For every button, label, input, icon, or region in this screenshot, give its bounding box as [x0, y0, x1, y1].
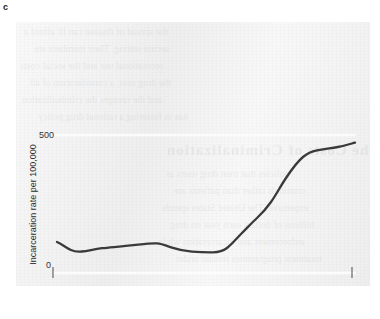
y-axis-label: Incarceration rate per 100,000 — [29, 120, 38, 287]
panel-label: c — [3, 3, 8, 12]
line-chart-plot — [16, 22, 370, 286]
chart-plate: the spread of disease can ill afford a s… — [16, 22, 370, 286]
y-tick-label-0: 0 — [46, 261, 51, 270]
incarceration-rate-line — [57, 143, 355, 253]
y-tick-label-500: 500 — [39, 131, 54, 140]
